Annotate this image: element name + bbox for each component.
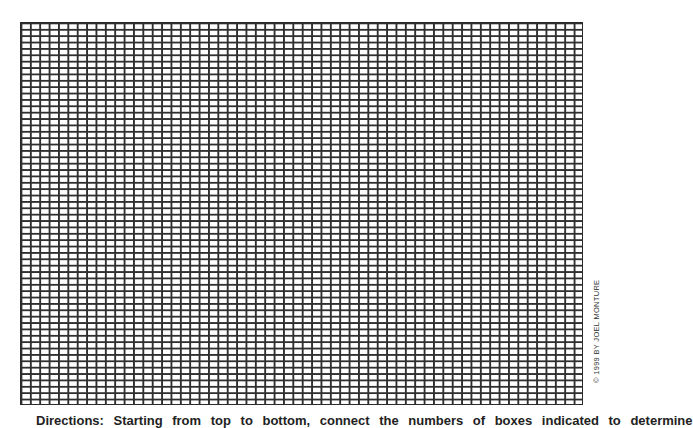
directions-text: Directions: Starting from top to bottom,… xyxy=(36,413,693,428)
copyright-notice: © 1999 BY JOEL MONTURE xyxy=(592,280,601,383)
graph-paper-grid xyxy=(20,22,583,405)
